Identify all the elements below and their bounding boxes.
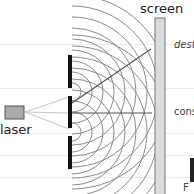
wavefronts (0, 0, 169, 194)
screen (155, 18, 165, 194)
screen-label: screen (140, 1, 183, 16)
laser-label: laser (0, 122, 32, 137)
cutoff-box (190, 158, 194, 182)
barrier (68, 55, 72, 169)
destructive-label: dest (174, 39, 194, 50)
laser-icon (5, 106, 24, 119)
constructive-label: cons (174, 106, 194, 117)
cutoff-label: F (183, 182, 189, 193)
double-slit-diagram (0, 0, 194, 194)
